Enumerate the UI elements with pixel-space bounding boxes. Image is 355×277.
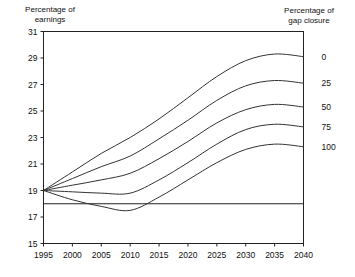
legend-label-25: 25 — [322, 78, 332, 88]
y-tick-label: 27 — [28, 80, 38, 90]
plot-frame — [44, 32, 304, 244]
y-tick-label: 29 — [28, 53, 38, 63]
x-tick-label: 2020 — [178, 250, 197, 260]
y-tick-label: 31 — [28, 27, 38, 37]
x-tick-label: 2025 — [207, 250, 226, 260]
y-axis-tick-labels: 151719212325272931 — [28, 27, 38, 249]
series-line — [44, 144, 304, 211]
y-tick-label: 15 — [28, 239, 38, 249]
legend-label-0: 0 — [322, 52, 327, 62]
series-line — [44, 80, 304, 190]
chart-container: Percentage of earnings Percentage of gap… — [0, 0, 355, 277]
y-tick-label: 21 — [28, 159, 38, 169]
x-tick-label: 2005 — [92, 250, 111, 260]
x-tick-label: 2030 — [236, 250, 255, 260]
y-tick-label: 23 — [28, 133, 38, 143]
line-chart-plot: 151719212325272931 199520002005201020152… — [0, 0, 355, 277]
x-tick-label: 2010 — [121, 250, 140, 260]
x-tick-label: 2040 — [294, 250, 313, 260]
legend-label-75: 75 — [322, 122, 332, 132]
legend-label-50: 50 — [322, 102, 332, 112]
series-line — [44, 104, 304, 190]
legend-label-100: 100 — [322, 142, 336, 152]
series-line — [44, 54, 304, 191]
legend-labels: 0255075100 — [322, 52, 336, 152]
x-tick-label: 2000 — [63, 250, 82, 260]
y-tick-label: 25 — [28, 106, 38, 116]
series-lines — [44, 54, 304, 211]
x-axis-tick-labels: 1995200020052010201520202025203020352040 — [34, 250, 313, 260]
y-tick-label: 19 — [28, 186, 38, 196]
x-tick-label: 2015 — [150, 250, 169, 260]
y-tick-label: 17 — [28, 212, 38, 222]
x-tick-label: 1995 — [34, 250, 53, 260]
x-tick-label: 2035 — [265, 250, 284, 260]
